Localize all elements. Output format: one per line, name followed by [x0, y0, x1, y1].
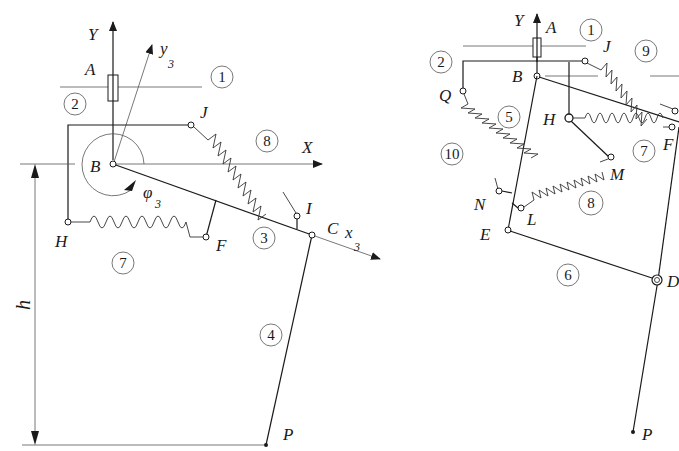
point-P [264, 443, 268, 447]
mechanism-diagram: Y y 3 A 1 2 H J X φ 3 x 3 B [0, 0, 679, 451]
right-label-A: A [545, 18, 557, 37]
right-label-M: M [609, 165, 625, 184]
label-x3: x [344, 223, 353, 242]
right-label-H: H [542, 110, 557, 129]
right-label-J: J [603, 37, 612, 56]
right-label-N: N [473, 195, 487, 214]
right-frame-2 [463, 61, 583, 88]
y3-axis [113, 45, 152, 165]
label-phi3: φ [143, 183, 152, 202]
label-F: F [215, 236, 227, 255]
label-y3-sub: 3 [167, 57, 174, 71]
right-label-F: F [662, 135, 674, 154]
label-x3-sub: 3 [353, 240, 360, 254]
frame-2 [68, 125, 190, 222]
right-part-1-label: 1 [587, 22, 595, 38]
right-label-L: L [526, 210, 536, 229]
spring-7 [90, 216, 186, 228]
right-spring-8 [601, 63, 647, 126]
right-joint-F [669, 124, 675, 130]
part-2-label: 2 [71, 96, 79, 112]
right-part-7-label: 7 [640, 143, 648, 159]
left-mechanism: Y y 3 A 1 2 H J X φ 3 x 3 B [12, 22, 380, 447]
right-label-E: E [479, 225, 491, 244]
right-part-9-label: 10 [445, 146, 460, 162]
link-6 [510, 231, 652, 278]
part-8-label: 8 [263, 133, 271, 149]
label-J: J [200, 103, 209, 122]
right-label-Y: Y [514, 11, 525, 30]
right-joint-H [565, 114, 573, 122]
link-HM [571, 121, 609, 157]
label-h: h [12, 300, 34, 310]
right-label-Q: Q [439, 86, 451, 105]
label-H: H [54, 232, 69, 251]
right-joint-E [505, 227, 511, 233]
dim-arrow-down-icon [31, 431, 39, 445]
right-joint-Q [460, 88, 466, 94]
right-spring-7 [585, 113, 663, 123]
label-y3: y [158, 39, 168, 58]
joint-J [188, 122, 194, 128]
right-joint-N [496, 188, 502, 194]
part-4-label: 4 [267, 327, 275, 343]
label-B: B [90, 157, 101, 176]
right-part-8-label: 9 [642, 43, 650, 59]
label-X: X [301, 138, 313, 157]
joint-F [203, 234, 209, 240]
dim-arrow-up-icon [31, 164, 39, 178]
part-3-label: 3 [260, 230, 268, 246]
right-part-6-label: 6 [564, 267, 572, 283]
joint-C [309, 232, 315, 238]
right-label-B: B [512, 67, 523, 86]
right-part-2-label: 2 [437, 54, 445, 70]
right-point-P [631, 430, 635, 434]
right-label-P: P [641, 425, 652, 444]
label-P: P [282, 425, 293, 444]
label-I: I [305, 199, 313, 218]
joint-H [65, 219, 71, 225]
right-label-D: D [666, 272, 679, 291]
part-1-label: 1 [218, 69, 226, 85]
right-part-10-label: 8 [587, 195, 595, 211]
bracket-F [206, 200, 216, 237]
joint-I [294, 213, 300, 219]
label-Y: Y [88, 25, 99, 44]
label-A: A [84, 60, 96, 79]
right-part-5-label: 5 [505, 109, 513, 125]
right-link-4 [633, 280, 658, 432]
right-mechanism: Y A 1 2 Q J 9 B 5 H M [430, 11, 679, 444]
part-7-label: 7 [119, 255, 127, 271]
label-C: C [327, 219, 339, 238]
right-joint-M [608, 154, 614, 160]
angle-arrow-icon [124, 180, 136, 191]
label-phi3-sub: 3 [154, 197, 161, 211]
right-joint-L [518, 205, 524, 211]
joint-B [110, 161, 116, 167]
